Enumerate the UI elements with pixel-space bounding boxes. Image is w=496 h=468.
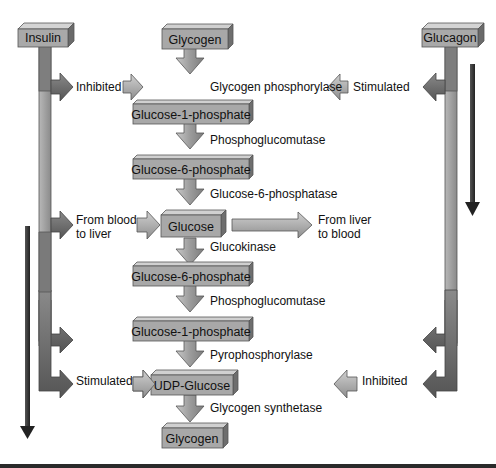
glucagon-inhibited-elbow <box>423 290 457 398</box>
bottom-elbows <box>0 0 496 468</box>
insulin-stimulated-target-arrow-2 <box>133 370 155 398</box>
bottom-border <box>0 464 496 468</box>
insulin-stimulated-elbow <box>39 290 73 398</box>
